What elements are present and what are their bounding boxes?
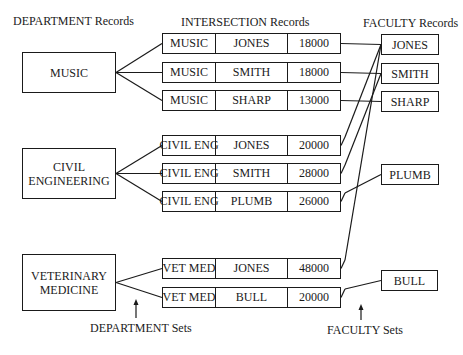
intersection-record: CIVIL ENGSMITH28000 [162,163,341,184]
department-record-veterinary-medicine: VETERINARY MEDICINE [22,254,116,311]
faculty-set-link [341,101,381,102]
faculty-set-link [345,281,381,290]
intersection-salary: 13000 [288,91,340,110]
faculty-set-link-tick [341,193,345,202]
intersection-department: CIVIL ENG [163,164,216,183]
intersection-department: MUSIC [163,34,216,53]
intersection-salary: 26000 [288,192,340,211]
intersection-department: MUSIC [163,63,216,82]
intersection-salary: 18000 [288,34,340,53]
department-name-line2: MEDICINE [40,283,99,297]
department-name-line1: CIVIL [53,160,85,174]
faculty-name: SHARP [391,95,430,109]
department-sets-arrow-head [134,299,139,305]
department-set-link [116,174,162,202]
faculty-record-smith: SMITH [381,63,439,84]
faculty-set-link [341,73,381,74]
faculty-set-link-tick [341,137,345,146]
department-record-music: MUSIC [22,52,116,93]
intersection-department: CIVIL ENG [163,192,216,211]
intersection-salary: 18000 [288,63,340,82]
intersection-record: CIVIL ENGPLUMB26000 [162,191,341,212]
intersection-department: MUSIC [163,91,216,110]
intersection-salary: 48000 [288,259,340,278]
faculty-name: BULL [394,274,425,288]
faculty-sets-label: FACULTY Sets [327,323,403,338]
department-name-line2: ENGINEERING [28,174,109,188]
department-set-link [116,44,162,73]
intersection-faculty: PLUMB [216,192,288,211]
department-name: MUSIC [50,66,88,80]
faculty-sets-arrow-head [359,304,364,310]
intersection-faculty: JONES [216,136,288,155]
department-name-line1: VETERINARY [31,269,107,283]
faculty-records-header: FACULTY Records [363,16,458,31]
department-sets-label: DEPARTMENT Sets [90,321,192,336]
department-set-link [116,283,162,298]
intersection-department: VET MED [163,259,216,278]
faculty-record-sharp: SHARP [381,91,439,112]
intersection-faculty: BULL [216,288,288,307]
faculty-record-jones: JONES [381,34,439,55]
department-record-civil-engineering: CIVIL ENGINEERING [22,148,116,199]
faculty-record-bull: BULL [381,270,438,291]
department-set-link [116,146,162,174]
faculty-set-link-tick [341,289,345,298]
department-records-header: DEPARTMENT Records [13,14,134,29]
intersection-record: MUSICJONES18000 [162,33,341,54]
faculty-name: SMITH [391,67,428,81]
intersection-record: MUSICSHARP13000 [162,90,341,111]
intersection-department: VET MED [163,288,216,307]
faculty-record-plumb: PLUMB [381,164,439,185]
intersection-faculty: JONES [216,259,288,278]
department-set-link [116,73,162,101]
intersection-record: VET MEDBULL20000 [162,287,341,308]
intersection-faculty: SMITH [216,164,288,183]
intersection-record: MUSICSMITH18000 [162,62,341,83]
department-set-link [116,269,162,283]
intersection-record: VET MEDJONES48000 [162,258,341,279]
faculty-set-link [341,44,381,45]
faculty-name: JONES [392,38,428,52]
intersection-salary: 28000 [288,164,340,183]
faculty-set-link [345,45,381,138]
intersection-faculty: SMITH [216,63,288,82]
faculty-set-link [345,175,381,194]
faculty-name: PLUMB [389,168,430,182]
faculty-set-link-tick [341,260,345,269]
intersection-records-header: INTERSECTION Records [181,15,309,30]
faculty-set-link-tick [341,165,345,174]
intersection-department: CIVIL ENG [163,136,216,155]
intersection-record: CIVIL ENGJONES20000 [162,135,341,156]
intersection-faculty: JONES [216,34,288,53]
intersection-salary: 20000 [288,136,340,155]
intersection-salary: 20000 [288,288,340,307]
intersection-faculty: SHARP [216,91,288,110]
